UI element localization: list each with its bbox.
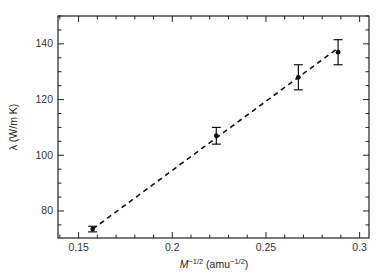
x-axis-label: M−1/2 (amu−1/2) (180, 257, 249, 270)
y-tick-label: 100 (35, 149, 53, 161)
plot-area (88, 40, 342, 232)
fit-line (93, 48, 338, 229)
chart: 0.150.20.250.380100120140 λ (W/m K) M−1/… (0, 0, 387, 275)
x-tick-label: 0.2 (165, 241, 180, 253)
y-tick-label: 120 (35, 93, 53, 105)
y-tick-label: 140 (35, 37, 53, 49)
x-tick-label: 0.15 (68, 241, 89, 253)
y-tick-label: 80 (41, 204, 53, 216)
marker (336, 50, 341, 55)
y-axis-label: λ (W/m K) (7, 104, 19, 151)
x-tick-label: 0.3 (352, 241, 367, 253)
data-point (334, 40, 343, 65)
x-tick-label: 0.25 (256, 241, 277, 253)
axes: 0.150.20.250.380100120140 (35, 16, 369, 253)
